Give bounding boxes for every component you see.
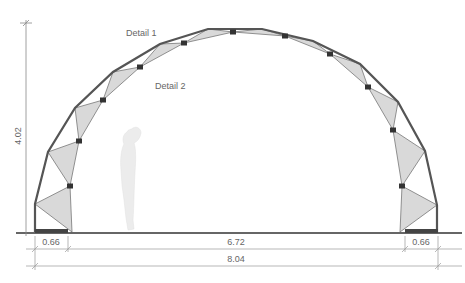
panel-triangle [140, 43, 184, 67]
connector-joint [399, 184, 405, 189]
connector-joint [390, 128, 396, 133]
panel-triangle [75, 100, 103, 141]
outer-frame [35, 29, 437, 232]
left-support-label: 0.66 [42, 237, 60, 247]
inner-span-label: 6.72 [227, 237, 245, 247]
panel-triangle [48, 141, 79, 186]
human-figure [121, 127, 141, 230]
connector-joint [282, 34, 288, 39]
connector-joint [100, 98, 106, 103]
right-support-label: 0.66 [412, 237, 430, 247]
connector-joint [181, 41, 187, 46]
detail-1-label: Detail 1 [126, 28, 157, 38]
panel-triangle [400, 186, 437, 232]
connectors [67, 30, 405, 189]
connector-joint [137, 65, 143, 70]
detail-2-label: Detail 2 [155, 81, 186, 91]
connector-joint [76, 139, 82, 144]
triangular-panels [35, 29, 437, 232]
arch-diagram: 4.02 0.66 6.72 0.66 8.04 Detail 1 Detail… [0, 0, 465, 283]
connector-joint [327, 52, 333, 57]
connector-joint [67, 184, 73, 189]
panel-triangle [103, 67, 140, 100]
connector-joint [230, 30, 236, 35]
connector-joint [365, 85, 371, 90]
panel-triangle [184, 29, 233, 43]
panel-triangle [368, 87, 398, 130]
height-label: 4.02 [13, 127, 23, 145]
total-span-label: 8.04 [227, 254, 245, 264]
panel-triangle [35, 186, 72, 232]
base-right [405, 229, 438, 233]
base-left [35, 229, 68, 233]
panel-triangle [393, 130, 425, 186]
